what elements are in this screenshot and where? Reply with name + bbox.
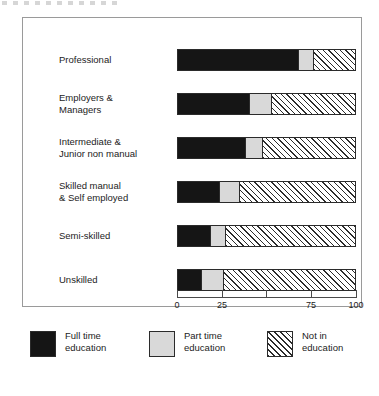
segment-part-time <box>219 182 240 202</box>
legend-label-not-in-education: Not in education <box>302 330 343 353</box>
scan-artifact-strip <box>2 1 122 5</box>
stacked-bar <box>177 137 356 159</box>
segment-full-time <box>178 182 219 202</box>
not-in-education-swatch-icon <box>267 331 293 357</box>
segment-not-in-education <box>263 138 355 158</box>
segment-full-time <box>178 138 245 158</box>
x-axis-tick-0 <box>177 290 178 298</box>
segment-part-time <box>249 94 272 114</box>
category-label-intermediate-junior-non-manual: Intermediate & Junior non manual <box>59 136 179 159</box>
segment-not-in-education <box>226 226 355 246</box>
x-axis-tick-100 <box>356 290 357 298</box>
category-label-professional: Professional <box>59 54 179 66</box>
stacked-bar <box>177 93 356 115</box>
segment-part-time <box>201 270 224 290</box>
x-axis-tick-25 <box>222 290 223 298</box>
chart-frame: Professional Employers & Managers Interm… <box>22 17 362 307</box>
legend-item-not-in-education: Not in education <box>267 330 343 357</box>
bar-row-employers-managers <box>177 93 356 115</box>
x-axis-label-100: 100 <box>348 300 363 310</box>
legend-item-part-time-education: Part time education <box>149 330 225 357</box>
segment-not-in-education <box>272 94 355 114</box>
segment-not-in-education <box>240 182 355 202</box>
segment-full-time <box>178 270 201 290</box>
segment-part-time <box>298 50 314 70</box>
segment-full-time <box>178 50 298 70</box>
category-label-employers-managers: Employers & Managers <box>59 92 179 115</box>
x-axis-label-75: 75 <box>306 300 316 310</box>
segment-not-in-education <box>314 50 355 70</box>
segment-full-time <box>178 226 210 246</box>
plot-area <box>177 18 356 308</box>
bar-row-intermediate-junior-non-manual <box>177 137 356 159</box>
segment-full-time <box>178 94 249 114</box>
full-time-swatch-icon <box>30 331 56 357</box>
segment-part-time <box>210 226 226 246</box>
category-label-unskilled: Unskilled <box>59 274 179 286</box>
chart-legend: Full time education Part time education … <box>22 330 362 374</box>
x-axis-tick-75 <box>311 290 312 298</box>
legend-label-full-time-education: Full time education <box>65 330 106 353</box>
x-axis-line <box>177 297 357 298</box>
legend-label-part-time-education: Part time education <box>184 330 225 353</box>
bar-row-professional <box>177 49 356 71</box>
bar-row-unskilled <box>177 269 356 291</box>
segment-not-in-education <box>224 270 355 290</box>
x-axis-label-0: 0 <box>174 300 179 310</box>
legend-item-full-time-education: Full time education <box>30 330 106 357</box>
stacked-bar <box>177 225 356 247</box>
category-label-skilled-manual-self-employed: Skilled manual & Self employed <box>59 180 179 203</box>
stacked-bar <box>177 49 356 71</box>
bar-row-skilled-manual-self-employed <box>177 181 356 203</box>
x-axis-label-25: 25 <box>217 300 227 310</box>
stacked-bar <box>177 269 356 291</box>
stacked-bar <box>177 181 356 203</box>
segment-part-time <box>245 138 263 158</box>
x-axis-tick-50 <box>266 290 267 298</box>
category-label-semi-skilled: Semi-skilled <box>59 230 179 242</box>
bar-row-semi-skilled <box>177 225 356 247</box>
part-time-swatch-icon <box>149 331 175 357</box>
